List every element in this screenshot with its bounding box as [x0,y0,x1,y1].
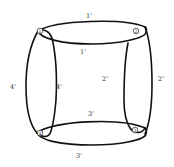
top-ellipse-inner-arc [38,27,146,44]
rounded-cube-diagram: 1 2 4 3 1' 1' 4' 4' 2' 2' 3' 3' [0,0,174,167]
label-top-outer: 1' [86,12,92,20]
label-right-inner: 2' [102,75,108,83]
label-top-inner: 1' [80,48,86,56]
corner-label: 1 [39,29,42,34]
label-left-outer: 4' [10,83,16,91]
corner-label: 3 [134,128,137,133]
label-bottom-inner: 3' [88,110,94,118]
label-bottom-outer: 3' [76,152,82,160]
left-outer-edge [26,31,38,133]
corner-marker-top-right: 2 [133,28,139,34]
right-outer-edge [145,27,152,134]
top-ellipse-outer-arc [38,21,145,31]
corner-label: 4 [39,131,42,136]
label-left-inner: 4' [56,83,62,91]
left-inner-edge [37,30,56,137]
corner-marker-top-left: 1 [37,28,43,34]
corner-marker-bottom-left: 4 [37,130,43,136]
corner-label: 2 [135,29,138,34]
right-inner-edge [124,43,145,133]
label-right-outer: 2' [158,75,164,83]
bottom-ellipse-outer-arc [37,128,146,145]
corner-marker-bottom-right: 3 [132,127,138,133]
